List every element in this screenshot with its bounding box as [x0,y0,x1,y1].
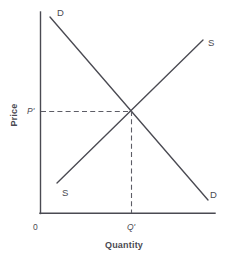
origin-label: 0 [33,222,38,232]
x-axis-title: Quantity [105,240,143,250]
demand-bottom-label: D [210,189,217,200]
equilibrium-price-label: P' [27,106,35,116]
supply-demand-chart-canvas: D D S S P' Q' 0 Price Quantity [0,0,229,258]
equilibrium-quantity-label: Q' [127,222,136,232]
equilibrium-guides [41,111,132,213]
y-axis-title: Price [9,103,19,126]
supply-curve [57,40,203,183]
demand-curve-group [50,17,208,200]
supply-bottom-label: S [62,187,68,198]
demand-top-label: D [57,7,64,18]
demand-curve [50,17,208,200]
chart-axes [40,12,215,214]
supply-demand-diagram: D D S S P' Q' 0 Price Quantity [0,0,229,258]
supply-curve-group [57,40,203,183]
supply-top-label: S [208,37,214,48]
